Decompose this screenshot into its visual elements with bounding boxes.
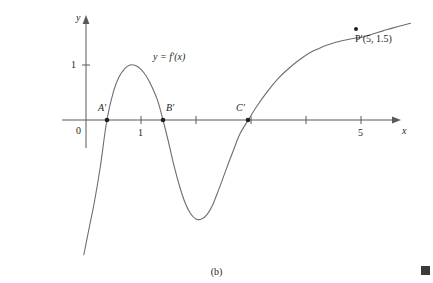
point-B-prime-dot	[161, 118, 166, 123]
x-tick-label-1: 1	[138, 128, 143, 138]
y-axis-arrowhead	[83, 15, 90, 24]
point-C-prime-label: C′	[236, 103, 245, 113]
y-tick-label-1: 1	[71, 60, 76, 70]
y-axis-label: y	[76, 13, 80, 23]
figure-caption: (b)	[0, 266, 433, 277]
x-tick-label-5: 5	[358, 128, 363, 138]
section-end-square-icon	[421, 266, 430, 275]
marked-points-group	[105, 27, 358, 122]
point-A-prime-dot	[105, 118, 110, 123]
point-P-prime-label: P′(5, 1.5)	[355, 34, 392, 44]
point-B-prime-label: B′	[166, 103, 174, 113]
curve-group	[84, 23, 411, 255]
x-axis-label: x	[402, 126, 406, 136]
origin-label: 0	[76, 126, 81, 136]
curve-equation-label: y = f′(x)	[153, 52, 185, 62]
point-C-prime-dot	[246, 118, 251, 123]
derivative-curve	[84, 23, 411, 255]
x-axis-arrowhead	[392, 117, 401, 124]
point-P-prime-dot	[354, 27, 358, 31]
axes-group	[62, 15, 401, 148]
point-A-prime-label: A′	[98, 103, 106, 113]
